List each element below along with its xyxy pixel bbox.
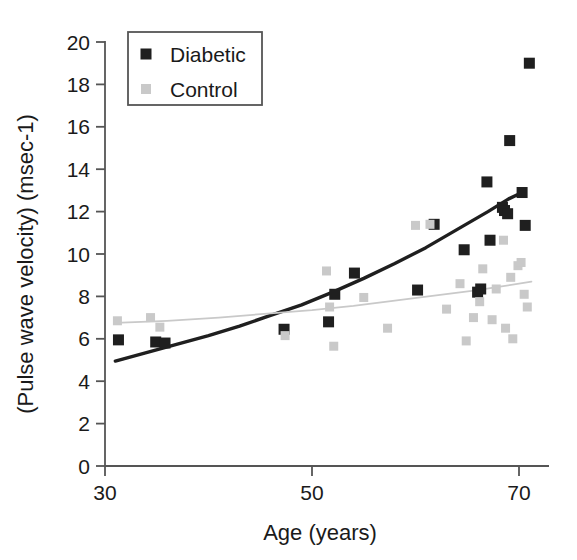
data-point-marker bbox=[501, 324, 510, 333]
data-point-marker bbox=[442, 305, 451, 314]
pulse-wave-velocity-scatter-figure: 02468101214161820305070Age (years)(Pulse… bbox=[0, 0, 577, 560]
data-point-marker bbox=[323, 316, 334, 327]
data-point-marker bbox=[475, 283, 486, 294]
x-axis-tick-label: 50 bbox=[300, 481, 323, 504]
data-point-marker bbox=[506, 273, 515, 282]
trend-lines bbox=[115, 193, 531, 362]
chart-canvas: 02468101214161820305070Age (years)(Pulse… bbox=[0, 0, 577, 560]
data-point-marker bbox=[508, 334, 517, 343]
data-point-marker bbox=[113, 316, 122, 325]
x-axis-tick-label: 70 bbox=[507, 481, 530, 504]
data-point-marker bbox=[462, 336, 471, 345]
data-point-marker bbox=[329, 289, 340, 300]
data-point-marker bbox=[281, 331, 290, 340]
data-point-marker bbox=[517, 187, 528, 198]
y-axis-tick-label: 4 bbox=[78, 370, 90, 393]
data-point-marker bbox=[459, 244, 470, 255]
data-point-marker bbox=[412, 285, 423, 296]
data-point-marker bbox=[383, 324, 392, 333]
data-point-marker bbox=[349, 268, 360, 279]
y-axis-tick-label: 16 bbox=[67, 115, 90, 138]
data-point-marker bbox=[524, 58, 535, 69]
data-point-marker bbox=[456, 279, 465, 288]
data-point-marker bbox=[488, 315, 497, 324]
data-point-marker bbox=[113, 334, 124, 345]
data-point-marker bbox=[517, 258, 526, 267]
data-point-marker bbox=[469, 313, 478, 322]
data-point-marker bbox=[523, 303, 532, 312]
data-point-marker bbox=[492, 284, 501, 293]
trend-line bbox=[115, 193, 522, 362]
data-point-marker bbox=[475, 297, 484, 306]
y-axis-tick-label: 0 bbox=[78, 455, 90, 478]
data-point-marker bbox=[478, 264, 487, 273]
legend-swatch-diabetic bbox=[141, 49, 152, 60]
y-axis-tick-label: 20 bbox=[67, 31, 90, 54]
data-point-marker bbox=[325, 303, 334, 312]
data-point-marker bbox=[160, 338, 171, 349]
legend-label-diabetic[interactable]: Diabetic bbox=[170, 43, 246, 66]
legend[interactable]: DiabeticControl bbox=[128, 32, 262, 105]
data-point-marker bbox=[155, 323, 164, 332]
data-point-marker bbox=[481, 176, 492, 187]
data-point-marker bbox=[504, 135, 515, 146]
y-axis-title: (Pulse wave velocity) (msec-1) bbox=[13, 114, 38, 414]
data-point-marker bbox=[520, 220, 531, 231]
x-axis-tick-label: 30 bbox=[93, 481, 116, 504]
y-axis-tick-label: 18 bbox=[67, 73, 90, 96]
data-point-marker bbox=[499, 236, 508, 245]
legend-swatch-control bbox=[141, 84, 151, 94]
y-axis-tick-label: 6 bbox=[78, 327, 90, 350]
data-point-marker bbox=[502, 208, 513, 219]
data-point-marker bbox=[520, 290, 529, 299]
y-axis-tick-label: 10 bbox=[67, 243, 90, 266]
y-axis-tick-label: 12 bbox=[67, 200, 90, 223]
data-point-marker bbox=[425, 220, 434, 229]
axes bbox=[96, 41, 549, 476]
x-axis-title: Age (years) bbox=[263, 520, 377, 545]
data-point-marker bbox=[411, 221, 420, 230]
data-point-marker bbox=[329, 342, 338, 351]
data-point-marker bbox=[359, 293, 368, 302]
data-point-marker bbox=[485, 235, 496, 246]
y-axis-tick-label: 2 bbox=[78, 412, 90, 435]
legend-label-control[interactable]: Control bbox=[170, 78, 238, 101]
y-axis-tick-label: 14 bbox=[67, 158, 91, 181]
data-point-marker bbox=[322, 266, 331, 275]
axis-labels: 02468101214161820305070Age (years)(Pulse… bbox=[13, 31, 531, 546]
data-point-marker bbox=[146, 313, 155, 322]
y-axis-tick-label: 8 bbox=[78, 285, 90, 308]
